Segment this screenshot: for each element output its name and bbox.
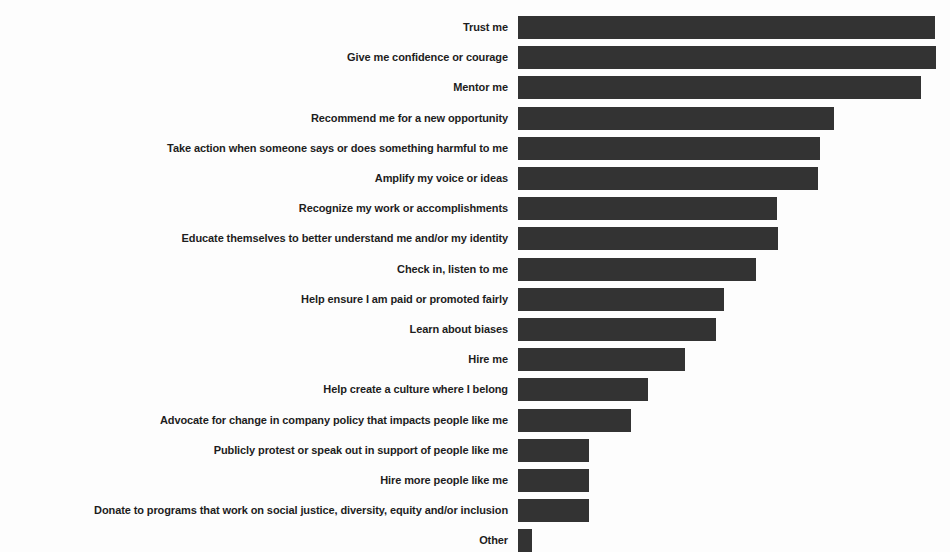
bar-row: Educate themselves to better understand … bbox=[0, 227, 950, 250]
bar-row: Give me confidence or courage bbox=[0, 46, 950, 69]
category-label: Help ensure I am paid or promoted fairly bbox=[0, 293, 508, 306]
category-label: Recognize my work or accomplishments bbox=[0, 202, 508, 215]
category-label: Take action when someone says or does so… bbox=[0, 142, 508, 155]
bar-track bbox=[518, 409, 950, 432]
bar-track bbox=[518, 258, 950, 281]
category-label: Trust me bbox=[0, 21, 508, 34]
bar-track bbox=[518, 499, 950, 522]
bar-track bbox=[518, 16, 950, 39]
category-label: Amplify my voice or ideas bbox=[0, 172, 508, 185]
category-label: Give me confidence or courage bbox=[0, 51, 508, 64]
bar-row: Help create a culture where I belong bbox=[0, 378, 950, 401]
bar-track bbox=[518, 137, 950, 160]
bar bbox=[518, 469, 589, 492]
category-label: Educate themselves to better understand … bbox=[0, 232, 508, 245]
bar bbox=[518, 76, 921, 99]
bar-track bbox=[518, 469, 950, 492]
bar-row: Help ensure I am paid or promoted fairly bbox=[0, 288, 950, 311]
bar bbox=[518, 288, 724, 311]
bar-row: Take action when someone says or does so… bbox=[0, 137, 950, 160]
bar bbox=[518, 167, 818, 190]
bar-track bbox=[518, 107, 950, 130]
bar bbox=[518, 227, 778, 250]
bar-track bbox=[518, 348, 950, 371]
category-label: Recommend me for a new opportunity bbox=[0, 112, 508, 125]
bar-row: Hire more people like me bbox=[0, 469, 950, 492]
category-label: Hire more people like me bbox=[0, 474, 508, 487]
bar-row: Amplify my voice or ideas bbox=[0, 167, 950, 190]
bar-track bbox=[518, 227, 950, 250]
bar-track bbox=[518, 197, 950, 220]
category-label: Advocate for change in company policy th… bbox=[0, 414, 508, 427]
bar-row: Other bbox=[0, 529, 950, 552]
bar-row: Mentor me bbox=[0, 76, 950, 99]
category-label: Mentor me bbox=[0, 81, 508, 94]
category-label: Learn about biases bbox=[0, 323, 508, 336]
bar bbox=[518, 107, 834, 130]
bar bbox=[518, 197, 777, 220]
bar bbox=[518, 378, 648, 401]
bar-row: Check in, listen to me bbox=[0, 258, 950, 281]
bar bbox=[518, 258, 756, 281]
bar bbox=[518, 409, 631, 432]
bar bbox=[518, 348, 685, 371]
bar bbox=[518, 318, 716, 341]
bar-row: Publicly protest or speak out in support… bbox=[0, 439, 950, 462]
bar-track bbox=[518, 529, 950, 552]
category-label: Publicly protest or speak out in support… bbox=[0, 444, 508, 457]
bar-track bbox=[518, 318, 950, 341]
bar bbox=[518, 499, 589, 522]
bar-row: Advocate for change in company policy th… bbox=[0, 409, 950, 432]
bar bbox=[518, 137, 820, 160]
bar bbox=[518, 529, 532, 552]
bar-track bbox=[518, 167, 950, 190]
bar-row: Hire me bbox=[0, 348, 950, 371]
bar-track bbox=[518, 46, 950, 69]
category-label: Donate to programs that work on social j… bbox=[0, 504, 508, 517]
category-label: Hire me bbox=[0, 353, 508, 366]
bar bbox=[518, 439, 589, 462]
bar-row: Recommend me for a new opportunity bbox=[0, 107, 950, 130]
bar-track bbox=[518, 76, 950, 99]
bar-track bbox=[518, 439, 950, 462]
bar-track bbox=[518, 378, 950, 401]
bar-row: Learn about biases bbox=[0, 318, 950, 341]
bar-row: Donate to programs that work on social j… bbox=[0, 499, 950, 522]
bar bbox=[518, 16, 935, 39]
bar-track bbox=[518, 288, 950, 311]
bar-row: Trust me bbox=[0, 16, 950, 39]
bar-row: Recognize my work or accomplishments bbox=[0, 197, 950, 220]
category-label: Other bbox=[0, 534, 508, 547]
category-label: Check in, listen to me bbox=[0, 263, 508, 276]
category-label: Help create a culture where I belong bbox=[0, 383, 508, 396]
bar bbox=[518, 46, 936, 69]
